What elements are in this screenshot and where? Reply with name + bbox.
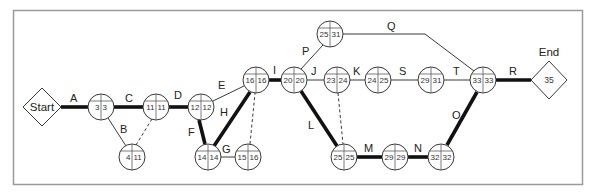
latest-finish-value: 24 bbox=[339, 76, 348, 85]
event-node: 2324 bbox=[324, 67, 350, 93]
event-node: 3333 bbox=[470, 67, 496, 93]
activity-label-Q: Q bbox=[387, 20, 396, 32]
earliest-start-value: 29 bbox=[421, 76, 430, 85]
earliest-start-value: 11 bbox=[146, 103, 155, 112]
event-node: 1616 bbox=[243, 67, 269, 93]
activity-label-F: F bbox=[188, 126, 195, 138]
event-node: 1111 bbox=[143, 94, 169, 120]
activity-label-S: S bbox=[399, 65, 406, 77]
earliest-start-value: 25 bbox=[320, 30, 329, 39]
activity-label-M: M bbox=[364, 142, 373, 154]
activity-label-I: I bbox=[273, 64, 276, 76]
earliest-start-value: 33 bbox=[473, 76, 482, 85]
event-node: 2425 bbox=[365, 67, 391, 93]
activity-label-G: G bbox=[222, 143, 231, 155]
activity-label-T: T bbox=[453, 65, 460, 77]
event-node: 1212 bbox=[188, 94, 214, 120]
event-node: 2525 bbox=[331, 144, 357, 170]
earliest-start-value: 23 bbox=[327, 76, 336, 85]
latest-finish-value: 33 bbox=[485, 76, 494, 85]
event-node: 2931 bbox=[418, 67, 444, 93]
earliest-start-value: 24 bbox=[368, 76, 377, 85]
earliest-start-value: 16 bbox=[246, 76, 255, 85]
latest-finish-value: 3 bbox=[103, 103, 108, 112]
activity-label-C: C bbox=[125, 92, 133, 104]
event-node: 33 bbox=[88, 94, 114, 120]
event-node: 411 bbox=[119, 144, 145, 170]
earliest-start-value: 14 bbox=[198, 153, 207, 162]
activity-label-K: K bbox=[353, 65, 361, 77]
earliest-start-value: 3 bbox=[95, 103, 100, 112]
latest-finish-value: 31 bbox=[332, 30, 341, 39]
event-node: 1516 bbox=[235, 144, 261, 170]
latest-finish-value: 25 bbox=[346, 153, 355, 162]
latest-finish-value: 11 bbox=[158, 103, 167, 112]
activity-label-R: R bbox=[509, 65, 517, 77]
latest-finish-value: 32 bbox=[443, 153, 452, 162]
activity-label-B: B bbox=[120, 123, 127, 135]
latest-finish-value: 14 bbox=[210, 153, 219, 162]
activity-label-P: P bbox=[302, 45, 309, 57]
event-node: 2020 bbox=[281, 67, 307, 93]
event-node: 2531 bbox=[317, 21, 343, 47]
latest-finish-value: 16 bbox=[250, 153, 259, 162]
event-node: 1414 bbox=[195, 144, 221, 170]
earliest-start-value: 12 bbox=[191, 103, 200, 112]
latest-finish-value: 20 bbox=[296, 76, 305, 85]
activity-label-H: H bbox=[220, 106, 228, 118]
latest-finish-value: 11 bbox=[134, 153, 143, 162]
activity-label-L: L bbox=[308, 119, 314, 131]
end-value: 35 bbox=[544, 75, 554, 85]
start-label: Start bbox=[30, 101, 55, 113]
network-diagram: A B C D E F G H I J K L M N O P Q R S T … bbox=[0, 0, 599, 195]
earliest-start-value: 20 bbox=[284, 76, 293, 85]
latest-finish-value: 16 bbox=[258, 76, 267, 85]
earliest-start-value: 29 bbox=[385, 153, 394, 162]
activity-label-J: J bbox=[311, 65, 317, 77]
activity-label-D: D bbox=[174, 89, 182, 101]
earliest-start-value: 15 bbox=[238, 153, 247, 162]
earliest-start-value: 25 bbox=[334, 153, 343, 162]
latest-finish-value: 25 bbox=[380, 76, 389, 85]
event-node: 2929 bbox=[382, 144, 408, 170]
activity-label-O: O bbox=[452, 109, 461, 121]
end-label: End bbox=[539, 46, 559, 58]
latest-finish-value: 12 bbox=[203, 103, 212, 112]
earliest-start-value: 32 bbox=[431, 153, 440, 162]
event-node: 3232 bbox=[428, 144, 454, 170]
latest-finish-value: 29 bbox=[397, 153, 406, 162]
activity-label-E: E bbox=[218, 79, 225, 91]
activity-label-A: A bbox=[70, 92, 78, 104]
earliest-start-value: 4 bbox=[126, 153, 131, 162]
activity-label-N: N bbox=[414, 142, 422, 154]
latest-finish-value: 31 bbox=[433, 76, 442, 85]
